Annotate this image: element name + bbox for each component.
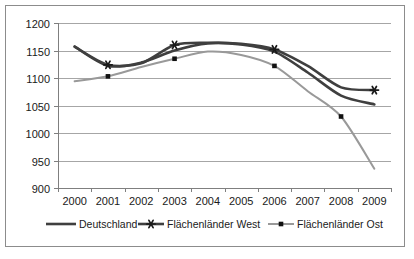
marker-dot-2008 [339, 114, 344, 119]
data-series [75, 41, 379, 168]
x-tick-label-2006: 2006 [262, 195, 286, 207]
x-tick-label-2009: 2009 [362, 195, 386, 207]
line-chart: 90095010001050110011501200 2000200120022… [6, 6, 404, 246]
x-tick-label-2004: 2004 [196, 195, 220, 207]
chart-legend: DeutschlandFlächenländer WestFlächenländ… [46, 218, 383, 230]
axis-lines [54, 23, 392, 192]
legend-marker-star [147, 220, 155, 227]
legend-item-fl-chenl-nder-west: Flächenländer West [138, 218, 260, 230]
x-tick-label-2003: 2003 [162, 195, 186, 207]
marker-dot-2006 [272, 64, 277, 69]
x-axis-tick-labels: 2000200120022003200420052006200720082009 [62, 195, 386, 207]
chart-container: 90095010001050110011501200 2000200120022… [5, 5, 405, 247]
x-tick-label-2000: 2000 [62, 195, 86, 207]
y-axis-tick-labels: 90095010001050110011501200 [26, 18, 50, 195]
series-fl-chenl-nder-ost [75, 52, 375, 169]
y-tick-label-900: 900 [32, 183, 50, 195]
marker-star-2009 [370, 86, 378, 93]
legend-item-deutschland: Deutschland [46, 218, 138, 230]
y-tick-label-1050: 1050 [26, 101, 50, 113]
x-tick-label-2005: 2005 [229, 195, 253, 207]
legend-marker-dot [279, 222, 284, 227]
y-tick-label-950: 950 [32, 156, 50, 168]
marker-dot-2003 [172, 56, 177, 61]
legend-label: Deutschland [79, 218, 138, 230]
x-tick-label-2002: 2002 [129, 195, 153, 207]
y-tick-label-1200: 1200 [26, 18, 50, 30]
legend-item-fl-chenl-nder-ost: Flächenländer Ost [268, 218, 383, 230]
x-tick-label-2001: 2001 [96, 195, 120, 207]
x-tick-label-2008: 2008 [329, 195, 353, 207]
y-tick-label-1000: 1000 [26, 128, 50, 140]
y-tick-label-1150: 1150 [26, 46, 50, 58]
legend-label: Flächenländer West [167, 218, 260, 230]
legend-label: Flächenländer Ost [297, 218, 383, 230]
x-tick-label-2007: 2007 [296, 195, 320, 207]
gridlines [58, 24, 391, 189]
y-tick-label-1100: 1100 [26, 73, 50, 85]
marker-dot-2001 [106, 74, 111, 79]
